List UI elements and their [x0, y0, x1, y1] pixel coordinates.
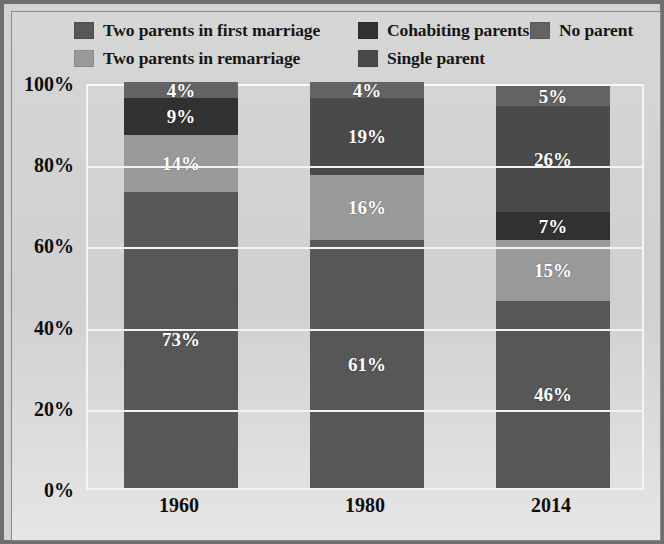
bar-1960[interactable]: 73%14%9%4% — [124, 86, 238, 488]
bar-segment-value-label: 5% — [539, 87, 568, 106]
y-axis-tick-label: 80% — [34, 154, 74, 177]
legend-label: Two parents in first marriage — [103, 21, 320, 39]
bar-segment-two-parents-in-remarriage[interactable]: 15% — [496, 240, 610, 301]
chart-screenshot: Two parents in first marriageCohabiting … — [0, 0, 664, 544]
legend-two-parents-first-marriage[interactable]: Two parents in first marriage — [74, 21, 320, 39]
legend-label: Cohabiting parents — [387, 21, 529, 39]
bar-segment-value-label: 61% — [348, 355, 386, 374]
bar-segment-value-label: 4% — [353, 82, 382, 98]
gridline — [88, 166, 642, 168]
legend-swatch-icon — [74, 22, 94, 39]
legend-cohabiting-parents[interactable]: Cohabiting parents — [358, 21, 529, 39]
bar-segment-value-label: 73% — [162, 330, 200, 349]
bar-segment-value-label: 7% — [539, 217, 568, 236]
y-axis-tick-label: 40% — [34, 316, 74, 339]
legend-two-parents-remarriage[interactable]: Two parents in remarriage — [74, 49, 300, 67]
legend-swatch-icon — [530, 22, 550, 39]
bars-container: 73%14%9%4%61%16%19%4%46%15%7%26%5% — [88, 86, 642, 488]
legend-row-2: Two parents in remarriageSingle parent — [74, 49, 650, 75]
y-axis-tick-label: 60% — [34, 235, 74, 258]
legend-label: No parent — [559, 21, 633, 39]
bar-segment-single-parent[interactable]: 26% — [496, 106, 610, 212]
x-axis-tick-label: 1980 — [345, 494, 385, 517]
y-axis-tick-label: 100% — [24, 73, 74, 96]
legend-swatch-icon — [74, 50, 94, 67]
bar-segment-value-label: 4% — [167, 82, 196, 98]
plot-area: 73%14%9%4%61%16%19%4%46%15%7%26%5% — [86, 84, 644, 490]
y-axis-tick-label: 20% — [34, 397, 74, 420]
bar-segment-value-label: 9% — [167, 107, 196, 126]
gridline — [88, 329, 642, 331]
gridline — [88, 247, 642, 249]
legend-label: Two parents in remarriage — [103, 49, 300, 67]
gridline — [88, 410, 642, 412]
bar-segment-no-parent[interactable]: 4% — [310, 82, 424, 98]
bar-segment-two-parents-in-first-marriage[interactable]: 73% — [124, 192, 238, 488]
y-axis-labels: 0%20%40%60%80%100% — [18, 84, 80, 490]
bar-segment-cohabiting-parents[interactable]: 9% — [124, 98, 238, 135]
bar-segment-two-parents-in-remarriage[interactable]: 16% — [310, 175, 424, 240]
bar-segment-value-label: 46% — [534, 385, 572, 404]
bar-segment-no-parent[interactable]: 4% — [124, 82, 238, 98]
bar-segment-value-label: 15% — [534, 261, 572, 280]
legend-swatch-icon — [358, 50, 378, 67]
x-axis-labels: 196019802014 — [86, 494, 644, 524]
bar-segment-two-parents-in-first-marriage[interactable]: 61% — [310, 240, 424, 488]
bar-segment-single-parent[interactable]: 19% — [310, 98, 424, 175]
legend-single-parent[interactable]: Single parent — [358, 49, 485, 67]
bar-segment-two-parents-in-remarriage[interactable]: 14% — [124, 135, 238, 192]
bar-1980[interactable]: 61%16%19%4% — [310, 86, 424, 488]
plot-wrapper: 0%20%40%60%80%100% 73%14%9%4%61%16%19%4%… — [18, 84, 644, 490]
legend-no-parent[interactable]: No parent — [530, 21, 633, 39]
bar-2014[interactable]: 46%15%7%26%5% — [496, 86, 610, 488]
bar-segment-value-label: 14% — [162, 154, 200, 173]
legend-swatch-icon — [358, 22, 378, 39]
x-axis-tick-label: 2014 — [531, 494, 571, 517]
y-axis-tick-label: 0% — [44, 479, 74, 502]
chart-legend: Two parents in first marriageCohabiting … — [74, 20, 650, 76]
bar-segment-no-parent[interactable]: 5% — [496, 86, 610, 106]
bar-segment-value-label: 19% — [348, 127, 386, 146]
legend-label: Single parent — [387, 49, 485, 67]
bar-segment-value-label: 16% — [348, 198, 386, 217]
bar-segment-cohabiting-parents[interactable]: 7% — [496, 212, 610, 240]
x-axis-tick-label: 1960 — [159, 494, 199, 517]
legend-row-1: Two parents in first marriageCohabiting … — [74, 21, 650, 47]
